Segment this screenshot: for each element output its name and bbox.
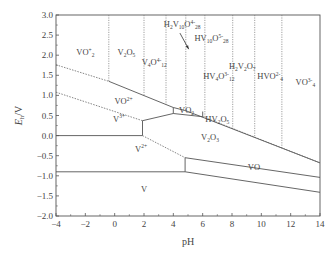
- y-tick-label: −2.0: [37, 211, 54, 221]
- region-vo2plus-ion: VO2+​: [114, 96, 132, 107]
- annotations: [180, 33, 189, 49]
- pourbaix-diagram: −4−2024681012143.02.52.01.51.00.50.0−0.5…: [0, 0, 333, 257]
- V2O3-V2-dotted: [143, 136, 186, 158]
- superscript: 2+: [141, 143, 147, 149]
- y-axis-label: Eh/V: [13, 105, 26, 126]
- text: HVO: [257, 71, 275, 81]
- region-v4o12: V4​O4-​12​: [142, 57, 167, 69]
- superscript: 2+: [127, 96, 133, 102]
- x-tick-label: 4: [171, 219, 176, 229]
- region-v2plus: V2+​: [135, 143, 147, 154]
- y-tick-label: 3.0: [42, 10, 54, 20]
- region-v: V: [141, 184, 148, 194]
- text: VO: [76, 47, 88, 57]
- text: VO: [296, 77, 308, 87]
- boundary-lines: [56, 15, 320, 192]
- x-tick-label: 2: [142, 219, 147, 229]
- region-vo2-plus: VO+​2​: [76, 47, 94, 59]
- V3-V4-solid: [143, 114, 174, 121]
- region-hv10o28: HV10​O5-​28​: [194, 33, 228, 45]
- x-axis-label: pH: [182, 236, 194, 247]
- y-tick-label: 0.0: [42, 131, 54, 141]
- x-tick-label: 10: [257, 219, 267, 229]
- y-tick-label: −1.0: [37, 171, 54, 181]
- x-tick-label: −2: [81, 219, 91, 229]
- text: VO: [179, 105, 191, 115]
- text: HV: [194, 33, 207, 43]
- region-hv4o12: HV4​O3-​12​: [203, 71, 235, 83]
- region-hvo4: HVO2-​4​: [257, 71, 283, 83]
- y-label-main: E: [13, 119, 24, 126]
- x-tick-label: 14: [316, 219, 326, 229]
- y-tick-label: 0.5: [42, 111, 54, 121]
- text: V: [141, 184, 148, 194]
- x-tick-label: 0: [112, 219, 117, 229]
- region-hv2o5: HV2​O5​: [205, 114, 229, 125]
- x-tick-label: 6: [200, 219, 205, 229]
- superscript: 3+: [119, 113, 125, 119]
- region-labels: VO+​2​V2​O5​V4​O4-​12​H2​V10​O4-​28​HV10…: [76, 19, 315, 194]
- region-v3plus: V3+​: [113, 113, 125, 124]
- subscript: 3: [216, 137, 219, 143]
- y-tick-label: 2.5: [42, 30, 54, 40]
- y-tick-label: 1.5: [42, 70, 54, 80]
- y-tick-label: −1.5: [37, 191, 54, 201]
- text: HV: [205, 114, 218, 124]
- arrow-head-icon: [186, 45, 189, 49]
- text: VO: [114, 96, 126, 106]
- y-tick-label: −0.5: [37, 151, 54, 161]
- region-vo4: VO3-​4​: [296, 77, 316, 89]
- upper-water-line: [56, 65, 109, 82]
- region-h2v2o7: H2​V2​O7​: [229, 61, 256, 72]
- subscript: 12: [161, 62, 167, 68]
- text: VO: [248, 162, 260, 172]
- region-v2o5: V2​O5​: [118, 47, 136, 58]
- text: HV: [203, 71, 216, 81]
- plot-axes: −4−2024681012143.02.52.01.51.00.50.0−0.5…: [13, 10, 325, 247]
- y-tick-label: 2.0: [42, 50, 54, 60]
- region-v2o3: V2​O3​: [201, 132, 219, 143]
- region-h2v10o28: H2​V10​O4-​28​: [164, 19, 201, 31]
- x-tick-label: 12: [286, 219, 295, 229]
- x-tick-label: 8: [230, 219, 235, 229]
- y-tick-label: 1.0: [42, 90, 54, 100]
- region-vo: VO: [248, 162, 260, 172]
- y-label-unit: /V: [13, 105, 24, 116]
- region-vo2: VO2​: [179, 105, 194, 116]
